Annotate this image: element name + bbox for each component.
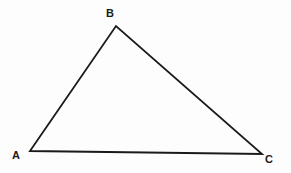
geometry-figure: A B C <box>0 0 291 173</box>
vertex-label-b: B <box>106 8 114 19</box>
triangle-shape <box>0 0 291 173</box>
figure-background <box>0 0 291 173</box>
vertex-label-a: A <box>12 150 20 161</box>
vertex-label-c: C <box>265 154 273 165</box>
